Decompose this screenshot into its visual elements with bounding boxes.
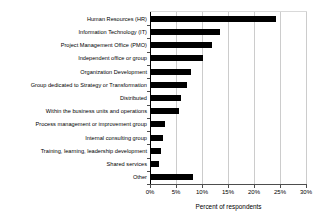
bar	[151, 174, 193, 180]
x-axis-title: Percent of respondents	[150, 203, 307, 210]
x-axis-tick	[202, 185, 203, 188]
category-label: Other	[133, 174, 147, 181]
bar	[151, 55, 203, 61]
category-label: Human Resources (HR)	[87, 15, 147, 22]
bar-row: Process management or improvement group	[0, 118, 325, 131]
bar	[151, 29, 220, 35]
category-label: Project Management Office (PMO)	[61, 42, 147, 49]
bar-row: Organization Development	[0, 65, 325, 78]
bar-row: Independent office or group	[0, 52, 325, 65]
y-axis-tick	[147, 184, 150, 185]
bar	[151, 121, 165, 127]
category-label: Training, learning, leadership developme…	[41, 147, 147, 154]
bar	[151, 161, 159, 167]
bar	[151, 16, 276, 22]
category-label: Distributed	[120, 94, 147, 101]
bar-row: Human Resources (HR)	[0, 12, 325, 25]
category-label: Internal consulting group	[85, 134, 147, 141]
bar-row: Group dedicated to Strategy or Transform…	[0, 78, 325, 91]
x-axis-tick-label: 20%	[242, 189, 266, 195]
category-label: Organization Development	[80, 68, 147, 75]
category-label: Group dedicated to Strategy or Transform…	[31, 81, 147, 88]
bar-row: Internal consulting group	[0, 131, 325, 144]
bar-row: Project Management Office (PMO)	[0, 38, 325, 51]
x-axis-tick	[254, 185, 255, 188]
x-axis-tick	[306, 185, 307, 188]
x-axis-tick-label: 10%	[190, 189, 214, 195]
bar-row: Within the business units and operations	[0, 105, 325, 118]
bar	[151, 42, 212, 48]
x-axis-tick-label: 25%	[268, 189, 292, 195]
category-label: Information Technology (IT)	[78, 28, 147, 35]
category-label: Shared services	[107, 161, 147, 168]
bar-row: Training, learning, leadership developme…	[0, 144, 325, 157]
bar	[151, 108, 179, 114]
bar	[151, 135, 163, 141]
bar	[151, 148, 161, 154]
category-label: Within the business units and operations	[46, 108, 147, 115]
category-label: Independent office or group	[78, 55, 147, 62]
x-axis-tick-label: 5%	[164, 189, 188, 195]
category-label: Process management or improvement group	[36, 121, 147, 128]
bar-row: Other	[0, 171, 325, 184]
x-axis-tick-label: 30%	[294, 189, 318, 195]
bar	[151, 69, 191, 75]
bar-row: Distributed	[0, 91, 325, 104]
bar-row: Information Technology (IT)	[0, 25, 325, 38]
x-axis-tick-label: 0%	[138, 189, 162, 195]
bar	[151, 95, 181, 101]
bar-row: Shared services	[0, 158, 325, 171]
bar-chart: Human Resources (HR)Information Technolo…	[0, 0, 325, 224]
x-axis-tick	[150, 185, 151, 188]
x-axis-tick	[176, 185, 177, 188]
bar	[151, 82, 187, 88]
x-axis-tick	[280, 185, 281, 188]
x-axis-tick-label: 15%	[216, 189, 240, 195]
x-axis-tick	[228, 185, 229, 188]
